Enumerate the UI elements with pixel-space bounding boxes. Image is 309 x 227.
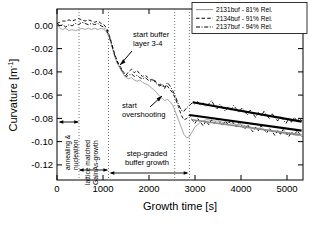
start-buffer-label-line1: start buffer <box>133 30 170 39</box>
legend-label-2137buf: 2137buf - 94% Rel. <box>216 23 273 30</box>
step-graded-line1: step-graded <box>127 149 168 158</box>
legend: 2131buf - 81% Rel. 2134buf - 91% Rel. 21… <box>192 3 307 34</box>
xtick-label-5: 5000 <box>276 183 297 194</box>
ytick-label-5: -0.10 <box>31 136 53 147</box>
legend-label-2131buf: 2131buf - 81% Rel. <box>216 6 273 13</box>
annealing-line2: nucleation <box>72 139 79 170</box>
ytick-label-4: -0.08 <box>31 113 53 124</box>
xtick-label-2: 2000 <box>138 183 159 194</box>
xtick-label-4: 4000 <box>230 183 251 194</box>
legend-label-2134buf: 2134buf - 91% Rel. <box>216 15 273 22</box>
ytick-label-1: -0.02 <box>31 43 53 54</box>
ytick-label-3: -0.06 <box>31 90 53 101</box>
x-axis-title: Growth time [s] <box>143 200 217 212</box>
y-axis-title: Curvature [m-1] <box>7 59 19 132</box>
ytick-label-0: 0.00 <box>35 20 54 31</box>
xtick-label-3: 3000 <box>184 183 205 194</box>
ytick-label-2: -0.04 <box>31 66 53 77</box>
y-axis-title-base: Curvature [m <box>7 68 19 132</box>
step-graded-line2: buffer growth <box>125 158 169 167</box>
lattice-line2: GaInAs-growth <box>92 140 100 185</box>
xtick-label-0: 0 <box>54 183 59 194</box>
chart-svg: 0.00 -0.02 -0.04 -0.06 -0.08 -0.10 -0.12… <box>0 0 309 227</box>
y-axis-title-close: ] <box>7 59 19 62</box>
start-buffer-label-line2: layer 3-4 <box>133 39 163 48</box>
ytick-label-6: -0.12 <box>31 159 53 170</box>
lattice-line1: lattice matched <box>84 140 91 185</box>
svg-text:Curvature [m-1]: Curvature [m-1] <box>7 59 19 132</box>
start-overshooting-line2: overshooting <box>122 110 165 119</box>
curvature-vs-growth-time-chart: 0.00 -0.02 -0.04 -0.06 -0.08 -0.10 -0.12… <box>0 0 309 227</box>
start-overshooting-line1: start <box>122 101 138 110</box>
